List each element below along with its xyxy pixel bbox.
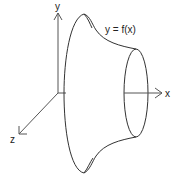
z-axis-label: z [10, 134, 15, 145]
bottom-cusp-detail [84, 158, 93, 173]
curve-label: y = f(x) [105, 24, 136, 35]
z-axis [19, 93, 58, 134]
left-ellipse [64, 14, 84, 173]
x-axis [124, 88, 162, 98]
y-axis-label: y [55, 1, 60, 12]
solid-of-revolution-figure: y z x y = f(x) [0, 0, 177, 184]
y-axis [54, 13, 62, 93]
diagram-canvas: y z x y = f(x) [0, 0, 177, 184]
x-axis-label: x [165, 88, 170, 99]
bottom-profile-curve [84, 137, 136, 173]
